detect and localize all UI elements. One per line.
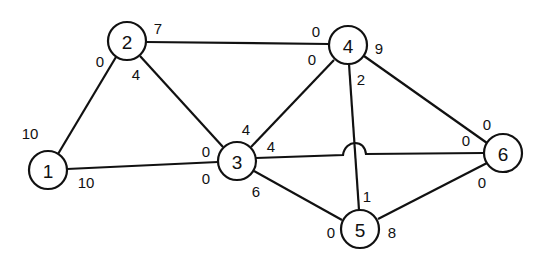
capacity-label: 0 bbox=[483, 116, 491, 133]
node-3: 3 bbox=[218, 142, 256, 180]
edge-capacity-labels: 10 10 0 7 4 0 0 9 2 4 4 0 0 6 0 0 0 1 0 … bbox=[22, 20, 492, 241]
node-4: 4 bbox=[329, 26, 367, 64]
capacity-label: 6 bbox=[252, 183, 260, 200]
node-2: 2 bbox=[108, 22, 146, 60]
capacity-label: 0 bbox=[96, 53, 104, 70]
capacity-label: 10 bbox=[22, 125, 39, 142]
node-5: 5 bbox=[341, 210, 379, 248]
capacity-label: 4 bbox=[267, 138, 275, 155]
edge-2-3 bbox=[140, 56, 223, 147]
capacity-label: 0 bbox=[308, 51, 316, 68]
network-graph: 1 2 3 4 5 6 10 10 0 7 4 0 0 9 2 4 bbox=[0, 0, 547, 263]
node-label: 1 bbox=[43, 161, 54, 182]
edge-1-2 bbox=[58, 57, 116, 154]
node-label: 2 bbox=[122, 32, 133, 53]
edge-1-3 bbox=[67, 162, 218, 169]
capacity-label: 0 bbox=[202, 170, 210, 187]
capacity-label: 0 bbox=[462, 132, 470, 149]
capacity-label: 0 bbox=[478, 174, 486, 191]
capacity-label: 7 bbox=[154, 20, 162, 37]
edge-5-6 bbox=[378, 163, 487, 219]
edge-3-5 bbox=[254, 171, 342, 220]
capacity-label: 0 bbox=[202, 143, 210, 160]
capacity-label: 8 bbox=[388, 224, 396, 241]
capacity-label: 4 bbox=[132, 66, 140, 83]
capacity-label: 9 bbox=[375, 40, 383, 57]
edge-3-6 bbox=[256, 143, 484, 158]
capacity-label: 1 bbox=[363, 188, 371, 205]
capacity-label: 10 bbox=[78, 174, 95, 191]
capacity-label: 2 bbox=[357, 71, 365, 88]
edges bbox=[58, 42, 487, 220]
node-label: 5 bbox=[355, 220, 366, 241]
edge-3-4 bbox=[251, 60, 334, 147]
edge-2-4 bbox=[146, 42, 329, 44]
node-label: 4 bbox=[343, 36, 354, 57]
capacity-label: 0 bbox=[312, 23, 320, 40]
node-label: 3 bbox=[232, 152, 243, 173]
capacity-label: 4 bbox=[242, 121, 250, 138]
capacity-label: 0 bbox=[327, 224, 335, 241]
node-1: 1 bbox=[29, 151, 67, 189]
node-label: 6 bbox=[498, 144, 509, 165]
edge-4-6 bbox=[364, 56, 487, 143]
node-6: 6 bbox=[484, 134, 522, 172]
